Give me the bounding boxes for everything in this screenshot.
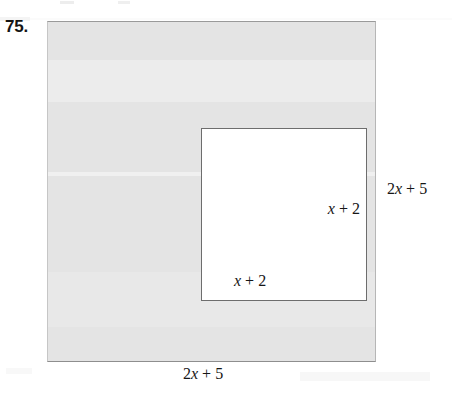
- inner-square-bottom-label: x + 2: [234, 273, 266, 289]
- operator-plus: +: [339, 200, 348, 217]
- outer-square-shape: x + 2 x + 2: [47, 21, 376, 362]
- constant-2: 2: [258, 272, 266, 289]
- outer-square-right-label: 2x + 5: [387, 181, 427, 197]
- scan-artifact: [60, 1, 74, 4]
- scan-artifact: [6, 368, 32, 374]
- scan-artifact: [0, 18, 452, 20]
- operator-plus: +: [202, 365, 211, 382]
- inner-square-right-label: x + 2: [328, 201, 360, 217]
- scan-artifact: [300, 372, 430, 381]
- operator-plus: +: [406, 180, 415, 197]
- problem-number: 75.: [5, 18, 28, 35]
- operator-plus: +: [245, 272, 254, 289]
- scan-artifact: [118, 1, 130, 4]
- constant-2: 2: [352, 200, 360, 217]
- coefficient-2: 2: [183, 365, 191, 382]
- inner-square-shape: x + 2 x + 2: [201, 128, 367, 301]
- coefficient-2: 2: [387, 180, 395, 197]
- scan-tone-band: [48, 60, 375, 102]
- constant-5: 5: [215, 365, 223, 382]
- figure-root: 75. x + 2 x + 2 2x + 5 2x + 5: [0, 0, 452, 393]
- variable-x: x: [328, 200, 335, 217]
- outer-square-bottom-label: 2x + 5: [183, 366, 223, 382]
- constant-5: 5: [419, 180, 427, 197]
